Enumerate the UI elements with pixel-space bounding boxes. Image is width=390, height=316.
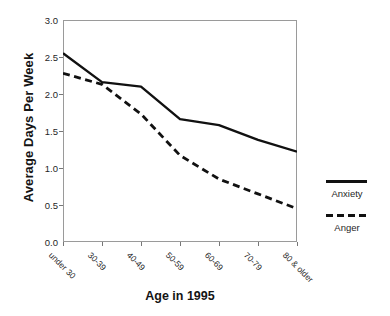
line-chart: Average Days Per Week 0.00.51.01.52.02.5… [0,0,390,316]
y-axis-tick-mark [59,168,63,169]
legend-line-swatch-solid [322,176,388,186]
y-axis-tick-label: 0.5 [32,200,58,211]
chart-legend: AnxietyAnger [322,176,388,244]
y-axis-tick-label: 1.0 [32,163,58,174]
y-axis-tick-mark [59,57,63,58]
legend-label: Anxiety [322,188,372,199]
y-axis-tick-mark [59,131,63,132]
legend-label: Anger [322,222,372,233]
plot-series-canvas [63,20,297,242]
x-axis-tick-label: 30-39 [86,250,108,272]
y-axis-tick-label: 2.5 [32,52,58,63]
x-axis-tick-mark [297,242,298,246]
x-axis-tick-mark [258,242,259,246]
y-axis-tick-labels: 0.00.51.01.52.02.53.0 [28,0,58,316]
series-line-anxiety [63,53,297,151]
x-axis-tick-label: 70-79 [242,250,264,272]
y-axis-tick-label: 1.5 [32,126,58,137]
x-axis-tick-label: 60-69 [203,250,225,272]
y-axis-tick-label: 2.0 [32,89,58,100]
x-axis-tick-mark [180,242,181,246]
x-axis-tick-mark [219,242,220,246]
x-axis-title: Age in 1995 [63,289,297,303]
y-axis-tick-label: 3.0 [32,15,58,26]
legend-entry[interactable]: Anger [322,210,388,233]
y-axis-tick-label: 0.0 [32,237,58,248]
x-axis-tick-label: 40-49 [125,250,147,272]
x-axis-tick-label: 80 & older [281,250,315,284]
x-axis-tick-mark [63,242,64,246]
x-axis-tick-mark [102,242,103,246]
legend-line-swatch-dashed [322,210,388,220]
dashed-line-icon [326,214,367,217]
y-axis-tick-mark [59,205,63,206]
x-axis-tick-mark [141,242,142,246]
y-axis-tick-mark [59,94,63,95]
legend-entry[interactable]: Anxiety [322,176,388,199]
x-axis-tick-label: 50-59 [164,250,186,272]
solid-line-icon [326,180,367,183]
